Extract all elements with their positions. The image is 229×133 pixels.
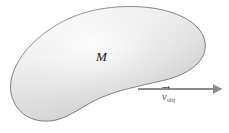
velocity-arrow: [138, 84, 223, 94]
vector-overbar-arrow-icon: [162, 85, 170, 90]
mass-label: M: [96, 49, 107, 65]
velocity-label: vobj: [162, 91, 175, 103]
physics-diagram-figure: M vobj: [0, 0, 229, 133]
velocity-subscript: obj: [167, 96, 176, 103]
blob-shape: [10, 7, 205, 122]
diagram-canvas: [0, 0, 229, 133]
velocity-symbol: v: [162, 91, 167, 102]
velocity-symbol-text: v: [162, 91, 167, 102]
